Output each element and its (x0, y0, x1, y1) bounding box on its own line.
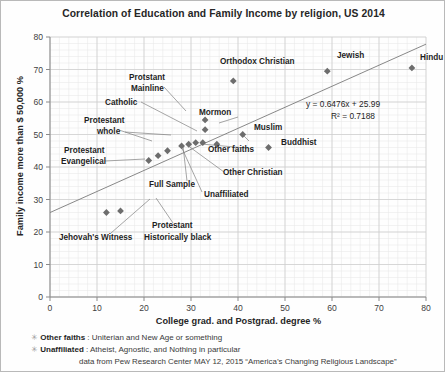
chart-frame: Correlation of Education and Family Inco… (0, 0, 445, 372)
y-tick-label: 50 (33, 130, 43, 140)
x-tick-label: 70 (374, 303, 384, 313)
annotation-label-hindu: Hindu (420, 53, 443, 62)
annotation-label-protstant-mainline-1: Protstant (129, 73, 165, 82)
annotation-leader-line (164, 87, 186, 111)
annotation-label-muslim: Muslim (254, 123, 282, 132)
annotation-label-buddhist: Buddhist (281, 138, 317, 147)
footnote-unaffiliated: ✳ Unaffiliated : Atheist, Agnostic, and … (31, 345, 240, 354)
data-point-marker (103, 209, 110, 216)
data-point-marker (202, 126, 209, 133)
annotation-label-jehovahs-witness: Jehovah's Witness (59, 233, 133, 242)
data-point-marker (202, 116, 209, 123)
x-tick-label: 40 (233, 303, 243, 313)
y-tick-label: 40 (33, 162, 43, 172)
annotation-label-protestant-whole-1: Protestant (84, 116, 125, 125)
data-point-marker (409, 64, 416, 71)
annotation-label-protstant-mainline-2: Mainline (131, 84, 164, 93)
y-tick-label: 10 (33, 260, 43, 270)
annotation-label-mormon: Mormon (199, 108, 231, 117)
footnote-text-other-faiths: : Uniterian and New Age or something (85, 333, 222, 342)
footnote-bullet-icon: ✳ (31, 345, 38, 354)
y-tick-label: 70 (33, 65, 43, 75)
x-tick-label: 0 (48, 303, 53, 313)
data-point-marker (164, 147, 171, 154)
annotation-label-catholic: Catholic (105, 98, 138, 107)
x-tick-label: 20 (139, 303, 149, 313)
data-point-marker (178, 142, 185, 149)
data-point-marker (192, 139, 199, 146)
footnote-text-unaffiliated: : Atheist, Agnostic, and Nothing in part… (84, 345, 241, 354)
x-tick-label: 10 (92, 303, 102, 313)
x-tick-label: 30 (186, 303, 196, 313)
annotation-label-protestant-evangelical-1: Protestant (64, 146, 105, 155)
footnote-other-faiths: ✳ Other faiths : Uniterian and New Age o… (31, 333, 222, 342)
y-tick-label: 30 (33, 195, 43, 205)
annotation-leader-line (141, 102, 197, 131)
data-point-marker (117, 207, 124, 214)
annotation-label-protestant-evangelical-2: Evangelical (61, 157, 106, 166)
y-tick-label: 20 (33, 227, 43, 237)
data-point-marker (230, 77, 237, 84)
x-tick-label: 60 (327, 303, 337, 313)
y-tick-label: 80 (33, 32, 43, 42)
scatter-plot: 0102030405060708001020304050607080HinduJ… (1, 1, 446, 373)
annotation-leader-line (119, 130, 152, 141)
data-point-marker (155, 152, 162, 159)
annotation-label-protestant-historically-black-1: Protestant (152, 221, 193, 230)
annotation-label-unaffiliated: Unaffiliated (204, 190, 249, 199)
annotation-label-jewish: Jewish (337, 51, 364, 60)
footnote-bullet-icon: ✳ (31, 333, 38, 342)
footnote-source: data from Pew Research Center MAY 12, 20… (79, 357, 397, 366)
data-point-marker (324, 68, 331, 75)
y-tick-label: 0 (38, 292, 43, 302)
trendline-r-squared: R² = 0.7188 (331, 111, 375, 121)
annotation-label-other-faiths: Other faiths (208, 145, 254, 154)
annotation-label-protestant-whole-2: whole (96, 127, 121, 136)
annotation-label-other-christian: Other Christian (223, 168, 283, 177)
footnote-term-unaffiliated: Unaffiliated (40, 345, 84, 354)
trendline-equation: y = 0.6476x + 25.99 (306, 99, 380, 109)
x-tick-label: 80 (421, 303, 431, 313)
annotation-label-orthodox-christian: Orthodox Christian (220, 57, 295, 66)
footnote-term-other-faiths: Other faiths (40, 333, 85, 342)
annotation-label-protestant-historically-black-2: Historically black (144, 233, 212, 242)
annotation-label-full-sample: Full Sample (149, 180, 195, 189)
y-tick-label: 60 (33, 97, 43, 107)
x-tick-label: 50 (280, 303, 290, 313)
data-point-marker (145, 157, 152, 164)
